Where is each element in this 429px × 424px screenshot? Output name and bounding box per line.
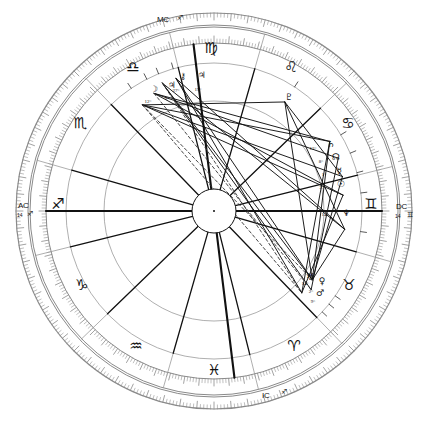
degree-tick-outer	[153, 396, 154, 400]
degree-tick-outer	[395, 140, 399, 141]
degree-tick-outer	[46, 314, 49, 316]
planet-glyph-north-node: ☊	[332, 152, 340, 162]
degree-tick-outer	[50, 100, 53, 102]
planet-degree-jupiter2: 19°	[195, 87, 202, 92]
degree-tick-outer	[379, 112, 385, 116]
degree-tick-inner	[90, 92, 93, 95]
degree-tick-inner	[113, 72, 115, 75]
degree-tick-outer	[106, 374, 108, 377]
degree-tick-inner	[45, 166, 52, 168]
house-cusp-spoke	[72, 170, 193, 205]
degree-tick-inner	[45, 178, 49, 179]
planet-degree-jupiter: 9°	[165, 96, 170, 101]
degree-tick-outer	[137, 29, 139, 33]
planet-degree-mercury: 1°	[322, 172, 327, 177]
degree-tick-inner	[102, 340, 106, 345]
degree-tick-inner	[80, 317, 83, 320]
sign-cusp-line	[250, 355, 259, 390]
degree-tick-outer	[331, 366, 333, 369]
degree-tick-outer	[328, 368, 330, 371]
degree-tick-outer	[176, 401, 177, 405]
degree-tick-outer	[130, 32, 133, 38]
degree-tick-inner	[341, 98, 344, 101]
degree-tick-inner	[308, 68, 310, 71]
degree-tick-outer	[150, 24, 151, 28]
degree-tick-inner	[333, 330, 338, 335]
degree-tick-outer	[354, 73, 357, 76]
degree-tick-outer	[58, 330, 61, 332]
degree-tick-outer	[20, 248, 24, 249]
zodiac-sign-taurus: ♉	[342, 276, 355, 294]
degree-tick-outer	[21, 255, 25, 256]
degree-tick-outer	[30, 284, 34, 285]
degree-tick-outer	[186, 403, 187, 407]
degree-tick-outer	[302, 35, 304, 39]
degree-tick-inner	[140, 363, 143, 369]
degree-tick-inner	[123, 353, 125, 356]
sign-cusp-line	[86, 79, 111, 105]
planet-glyph-mars: ♂	[316, 288, 324, 298]
degree-tick-inner	[305, 67, 307, 70]
degree-tick-inner	[57, 279, 61, 281]
degree-tick-inner	[380, 237, 384, 238]
degree-tick-inner	[269, 48, 270, 52]
degree-tick-inner	[114, 349, 118, 355]
degree-tick-outer	[360, 334, 365, 338]
degree-tick-inner	[243, 376, 244, 383]
degree-tick-outer	[380, 109, 383, 111]
degree-tick-outer	[393, 276, 400, 278]
axis-sign-glyph-ac: ♐	[27, 210, 33, 218]
degree-tick-inner	[361, 292, 364, 294]
degree-tick-inner	[106, 77, 109, 80]
degree-tick-inner	[187, 377, 188, 381]
degree-tick-inner	[101, 338, 104, 341]
degree-tick-inner	[249, 375, 250, 379]
degree-tick-inner	[184, 39, 185, 46]
degree-tick-inner	[139, 362, 141, 366]
degree-tick-outer	[261, 19, 262, 23]
degree-tick-inner	[67, 298, 70, 300]
planet-pointer-neptune	[361, 232, 367, 233]
degree-tick-inner	[144, 54, 146, 58]
degree-tick-inner	[152, 368, 153, 372]
degree-tick-outer	[371, 95, 374, 97]
degree-tick-inner	[353, 305, 356, 307]
degree-tick-outer	[398, 260, 405, 262]
degree-tick-outer	[67, 79, 70, 82]
degree-tick-inner	[95, 332, 98, 335]
degree-tick-outer	[388, 296, 392, 298]
degree-tick-inner	[381, 226, 388, 227]
degree-tick-outer	[349, 351, 352, 354]
degree-tick-inner	[136, 361, 138, 365]
degree-tick-outer	[267, 21, 268, 25]
degree-tick-inner	[257, 373, 259, 380]
degree-tick-inner	[339, 323, 342, 326]
degree-tick-outer	[375, 100, 378, 102]
degree-tick-inner	[372, 268, 379, 270]
degree-tick-outer	[106, 45, 108, 48]
degree-tick-inner	[45, 254, 52, 256]
degree-tick-inner	[78, 105, 81, 107]
degree-tick-inner	[240, 377, 241, 381]
degree-tick-outer	[346, 66, 349, 69]
degree-tick-inner	[376, 254, 383, 256]
planet-pointer-moon	[128, 83, 131, 88]
degree-tick-inner	[290, 361, 292, 365]
degree-tick-inner	[277, 367, 278, 371]
planet-degree-sun: 27°	[320, 185, 327, 190]
degree-tick-inner	[46, 246, 50, 247]
degree-tick-outer	[322, 372, 324, 375]
degree-tick-inner	[339, 96, 342, 99]
degree-tick-inner	[257, 42, 259, 49]
degree-tick-inner	[40, 226, 47, 227]
degree-tick-outer	[336, 362, 339, 365]
degree-tick-outer	[341, 62, 344, 65]
degree-tick-outer	[371, 325, 374, 327]
degree-tick-outer	[402, 244, 409, 245]
degree-tick-inner	[280, 53, 282, 57]
degree-tick-outer	[404, 248, 408, 249]
degree-tick-inner	[324, 338, 327, 341]
degree-tick-outer	[56, 92, 59, 94]
degree-tick-outer	[173, 401, 174, 405]
axis-sign-glyph-dc: ♊	[407, 211, 413, 219]
